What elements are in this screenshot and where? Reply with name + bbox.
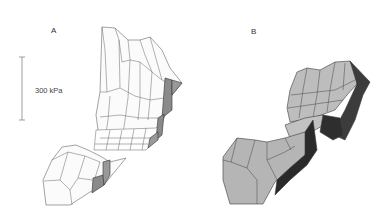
shaded-pressure-surface <box>195 0 389 213</box>
panel-a: A <box>0 0 195 213</box>
panel-b: B <box>195 0 389 213</box>
scale-bar <box>19 57 25 120</box>
wireframe-pressure-surface <box>0 0 195 213</box>
scale-bar-label: 300 kPa <box>35 86 63 95</box>
